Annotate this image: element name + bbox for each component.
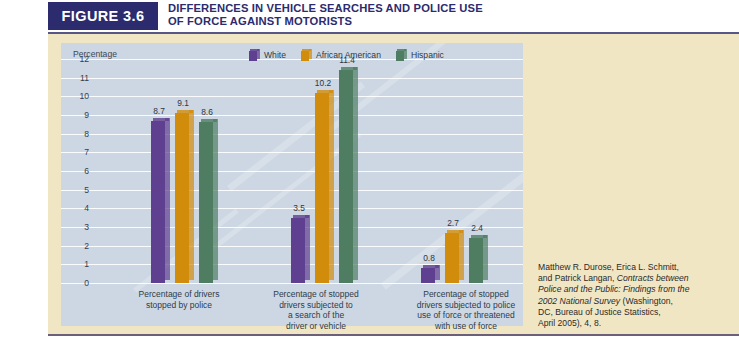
footer-divider: [48, 334, 739, 336]
y-tick-label: 6: [61, 167, 89, 175]
bar-group: 3.510.211.4: [291, 59, 363, 283]
figure-header: FIGURE 3.6 DIFFERENCES IN VEHICLE SEARCH…: [0, 0, 739, 33]
category-label-line: drivers subjected to police: [381, 300, 551, 311]
category-label-line: a search of the: [241, 310, 391, 321]
source-line-5: April 2005), 4, 8.: [538, 318, 601, 328]
category-label-line: with use of force: [381, 321, 551, 332]
bar-value-label: 10.2: [310, 78, 336, 88]
bar-value-label: 2.7: [440, 218, 466, 228]
bar-chart: Percentage 1211109876543210 WhiteAfrican…: [61, 43, 523, 326]
category-label: Percentage of driversstopped by police: [104, 289, 254, 310]
y-tick-label: 12: [61, 55, 89, 63]
bar-hispanic: 2.4: [469, 238, 483, 283]
y-tick-label: 1: [61, 260, 89, 268]
category-label: Percentage of stoppeddrivers subjected t…: [241, 289, 391, 331]
figure-title: DIFFERENCES IN VEHICLE SEARCHES AND POLI…: [168, 2, 498, 28]
bar-hispanic: 11.4: [339, 70, 353, 283]
bar-white: 0.8: [421, 268, 435, 283]
source-line-3: (Washington,: [620, 296, 673, 306]
category-label-line: stopped by police: [104, 300, 254, 311]
bar-value-label: 2.4: [464, 223, 490, 233]
bar-african-american: 10.2: [315, 93, 329, 283]
bar-white: 8.7: [151, 121, 165, 283]
figure-panel: FIGURE 3.6 DIFFERENCES IN VEHICLE SEARCH…: [0, 0, 739, 351]
category-label-line: drivers subjected to: [241, 300, 391, 311]
bar-hispanic: 8.6: [199, 122, 213, 283]
bar-group: 8.79.18.6: [151, 59, 223, 283]
y-tick-label: 5: [61, 186, 89, 194]
bar-value-label: 8.6: [194, 107, 220, 117]
y-tick-label: 2: [61, 242, 89, 250]
bar-african-american: 9.1: [175, 113, 189, 283]
legend-label: White: [264, 50, 286, 60]
figure-body: Percentage 1211109876543210 WhiteAfrican…: [48, 34, 739, 334]
y-tick-label: 7: [61, 148, 89, 156]
y-tick-label: 10: [61, 92, 89, 100]
y-tick-label: 4: [61, 204, 89, 212]
bar-value-label: 9.1: [170, 98, 196, 108]
category-label-line: Percentage of drivers: [104, 289, 254, 300]
category-label: Percentage of stoppeddrivers subjected t…: [381, 289, 551, 331]
category-label-line: driver or vehicle: [241, 321, 391, 332]
y-tick-label: 0: [61, 279, 89, 287]
source-italic-1: Contracts between: [617, 273, 689, 283]
y-tick-label: 9: [61, 111, 89, 119]
source-italic-3: 2002 National Survey: [538, 296, 620, 306]
source-italic-2: Police and the Public: Findings from the: [538, 284, 689, 294]
bar-white: 3.5: [291, 218, 305, 283]
source-line-2: and Patrick Langan,: [538, 273, 617, 283]
bar-value-label: 8.7: [146, 106, 172, 116]
figure-number-badge: FIGURE 3.6: [48, 2, 158, 30]
bar-value-label: 3.5: [286, 203, 312, 213]
category-label-line: Percentage of stopped: [381, 289, 551, 300]
bar-group: 0.82.72.4: [421, 59, 493, 283]
y-tick-label: 8: [61, 130, 89, 138]
y-tick-label: 11: [61, 74, 89, 82]
bar-value-label: 11.4: [334, 55, 360, 65]
category-label-line: Percentage of stopped: [241, 289, 391, 300]
x-axis-categories: Percentage of driversstopped by policePe…: [91, 289, 515, 329]
bar-african-american: 2.7: [445, 233, 459, 283]
y-tick-label: 3: [61, 223, 89, 231]
plot-area: 8.79.18.63.510.211.40.82.72.4: [91, 59, 515, 283]
legend-label: Hispanic: [411, 50, 444, 60]
source-citation: Matthew R. Durose, Erica L. Schmitt, and…: [538, 262, 730, 329]
source-line-4: DC, Bureau of Justice Statistics,: [538, 307, 661, 317]
category-label-line: use of force or threatened: [381, 310, 551, 321]
bar-value-label: 0.8: [416, 253, 442, 263]
source-line-1: Matthew R. Durose, Erica L. Schmitt,: [538, 262, 679, 272]
gridline: [61, 283, 523, 284]
